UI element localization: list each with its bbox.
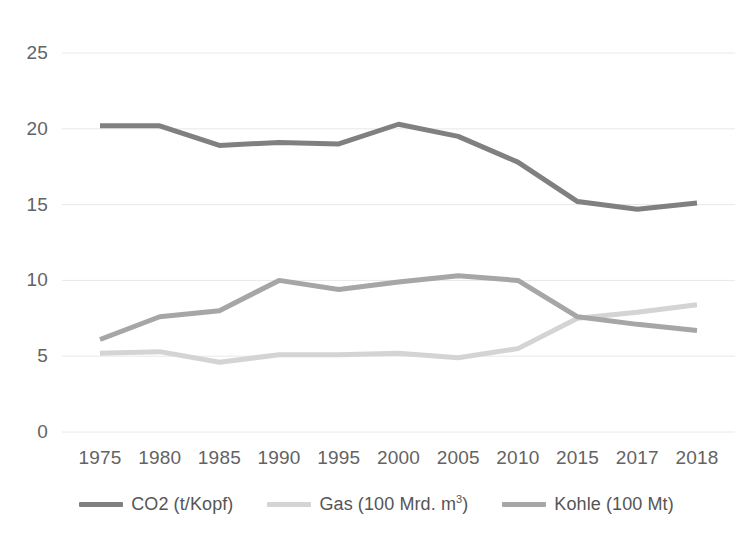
plot-area bbox=[0, 0, 753, 554]
legend-label: Gas (100 Mrd. m3) bbox=[319, 494, 468, 515]
series-lines bbox=[100, 124, 697, 362]
y-axis-tick-label: 20 bbox=[0, 119, 48, 138]
y-axis-tick-label: 0 bbox=[0, 422, 48, 441]
legend-item[interactable]: Kohle (100 Mt) bbox=[502, 494, 673, 515]
chart-container: 0510152025 19751980198519901995200020052… bbox=[0, 0, 753, 554]
legend-line-swatch bbox=[267, 502, 311, 507]
legend-label: CO2 (t/Kopf) bbox=[131, 494, 233, 515]
y-axis-tick-label: 25 bbox=[0, 43, 48, 62]
y-axis-tick-label: 15 bbox=[0, 195, 48, 214]
chart-legend: CO2 (t/Kopf)Gas (100 Mrd. m3)Kohle (100 … bbox=[0, 494, 753, 515]
gridlines bbox=[62, 53, 735, 432]
x-axis-tick-label: 2018 bbox=[657, 448, 737, 467]
legend-item[interactable]: CO2 (t/Kopf) bbox=[79, 494, 233, 515]
legend-line-swatch bbox=[502, 502, 546, 507]
y-axis-tick-label: 10 bbox=[0, 270, 48, 289]
series-line-co2 bbox=[100, 124, 697, 209]
legend-label: Kohle (100 Mt) bbox=[554, 494, 673, 515]
y-axis-tick-label: 5 bbox=[0, 346, 48, 365]
series-line-kohle bbox=[100, 276, 697, 340]
legend-item[interactable]: Gas (100 Mrd. m3) bbox=[267, 494, 468, 515]
legend-line-swatch bbox=[79, 502, 123, 507]
